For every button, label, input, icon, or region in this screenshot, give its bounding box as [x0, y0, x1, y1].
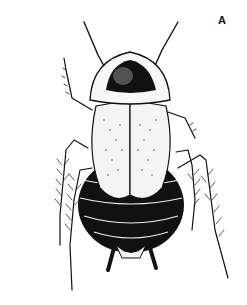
cercus-left — [108, 248, 114, 270]
cockroach-illustration — [0, 0, 247, 305]
foreleg-right — [168, 112, 195, 138]
panel-label: A — [218, 14, 226, 26]
cercus-right — [150, 248, 156, 268]
foreleg-left — [64, 58, 92, 110]
wings — [92, 100, 170, 199]
hindleg-right — [178, 155, 228, 278]
illustration-canvas: A — [0, 0, 247, 305]
